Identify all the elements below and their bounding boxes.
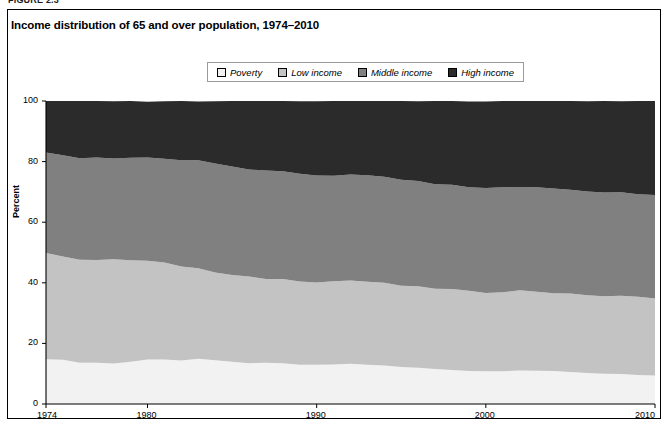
x-axis-tick-label: 1990 <box>306 410 326 420</box>
x-axis-tick-label: 2010 <box>635 410 655 420</box>
x-axis-tick-label: 1980 <box>137 410 157 420</box>
y-axis-title: Percent <box>11 185 21 218</box>
figure-container: FIGURE 2.3 Income distribution of 65 and… <box>0 0 670 426</box>
stacked-area-chart <box>0 0 670 426</box>
y-axis-tick-label: 20 <box>12 337 38 347</box>
y-axis-tick-label: 0 <box>12 398 38 408</box>
y-axis-tick-label: 80 <box>12 156 38 166</box>
y-axis-tick-label: 100 <box>12 95 38 105</box>
y-axis-tick-label: 60 <box>12 216 38 226</box>
x-axis-tick-label: 1974 <box>37 410 57 420</box>
y-axis-tick-label: 40 <box>12 277 38 287</box>
x-axis-tick-label: 2000 <box>475 410 495 420</box>
plot-area: Percent 020406080100 1974198019902000201… <box>0 0 670 426</box>
